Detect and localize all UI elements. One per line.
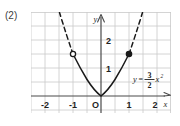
y-tick-label-1: 1: [106, 64, 111, 74]
x-axis-label: x: [163, 99, 168, 109]
closed-endpoint-marker: [126, 51, 131, 56]
open-endpoint-marker: [70, 51, 75, 56]
x-tick-label-neg2: -2: [41, 100, 49, 110]
equation-equals: =: [139, 75, 144, 84]
equation-denominator: 2: [148, 81, 152, 90]
origin-label: O: [92, 100, 99, 110]
figure-root: (2): [0, 0, 180, 126]
x-tick-label-neg1: -1: [69, 100, 77, 110]
plot-svg: y x 2 1 -2 -1 1 2 O y = 3 2 x 2: [31, 12, 171, 113]
equation-lhs: y: [132, 74, 137, 84]
y-tick-label-2: 2: [106, 36, 111, 46]
parabola-plot: y x 2 1 -2 -1 1 2 O y = 3 2 x 2: [31, 12, 171, 113]
equation-numerator: 3: [148, 71, 152, 80]
y-axis-label: y: [93, 14, 98, 24]
item-number-label: (2): [5, 10, 17, 21]
equation-exponent: 2: [161, 73, 164, 79]
x-tick-label-2: 2: [152, 100, 157, 110]
equation-variable: x: [155, 74, 160, 84]
x-tick-label-1: 1: [126, 100, 131, 110]
